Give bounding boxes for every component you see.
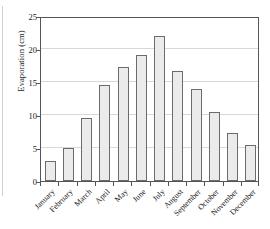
x-tick-mark-2 (77, 182, 78, 186)
bar-april (99, 85, 110, 181)
x-tick-mark-1 (58, 182, 59, 186)
bar-february (63, 148, 74, 181)
y-tick-label-15: 15 (13, 79, 37, 88)
y-tick-label-0: 0 (13, 178, 37, 187)
x-tick-mark-10 (223, 182, 224, 186)
bar-october (209, 112, 220, 181)
x-tick-label-march: March (42, 188, 93, 229)
y-tick-label-5: 5 (13, 145, 37, 154)
x-tick-label-november: November (188, 188, 239, 229)
x-tick-mark-7 (168, 182, 169, 186)
x-tick-label-april: April (61, 188, 112, 229)
y-tick-label-10: 10 (13, 112, 37, 121)
bar-series (41, 18, 258, 181)
y-tick-label-25: 25 (13, 13, 37, 22)
x-tick-label-august: August (134, 188, 185, 229)
x-tick-mark-4 (113, 182, 114, 186)
x-tick-mark-0 (40, 182, 41, 186)
x-tick-mark-6 (150, 182, 151, 186)
bar-march (81, 118, 92, 181)
x-tick-label-june: June (97, 188, 148, 229)
bar-august (172, 71, 183, 181)
bar-may (118, 67, 129, 181)
bar-january (45, 161, 56, 181)
x-tick-label-february: February (24, 188, 75, 229)
x-tick-label-october: October (170, 188, 221, 229)
plot-area (40, 17, 259, 182)
page-edge-artifact (2, 6, 3, 196)
y-tick-label-20: 20 (13, 46, 37, 55)
x-tick-label-december: December (207, 188, 258, 229)
x-tick-label-september: September (152, 188, 203, 229)
x-tick-mark-11 (241, 182, 242, 186)
bar-december (245, 145, 256, 181)
x-tick-mark-3 (95, 182, 96, 186)
bar-september (191, 89, 202, 181)
bar-july (154, 36, 165, 181)
x-tick-label-may: May (79, 188, 130, 229)
x-tick-label-july: July (115, 188, 166, 229)
x-tick-label-january: January (6, 188, 57, 229)
bar-november (227, 133, 238, 181)
x-tick-mark-9 (204, 182, 205, 186)
bar-june (136, 55, 147, 181)
x-tick-mark-8 (186, 182, 187, 186)
x-tick-mark-12 (258, 182, 259, 186)
evaporation-bar-chart: Evaporation (cm) 0510152025 JanuaryFebru… (0, 0, 270, 229)
x-tick-mark-5 (131, 182, 132, 186)
